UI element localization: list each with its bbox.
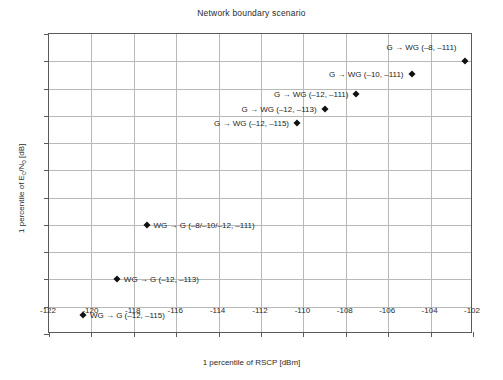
y-tick (44, 34, 49, 35)
gridline-horizontal (49, 61, 471, 62)
x-tick (303, 332, 304, 337)
x-tick-label: -118 (113, 306, 153, 315)
gridline-horizontal (49, 279, 471, 280)
data-point-label: G → WG (–12, –111) (274, 90, 348, 99)
gridline-horizontal (49, 252, 471, 253)
x-tick-label: -122 (28, 306, 68, 315)
chart-title: Network boundary scenario (0, 8, 503, 18)
data-point-marker (461, 58, 468, 65)
data-point-marker (321, 105, 328, 112)
gridline-vertical (303, 34, 304, 332)
data-point-marker (143, 221, 150, 228)
x-tick-label: -110 (282, 306, 322, 315)
gridline-horizontal (49, 170, 471, 171)
y-axis-title: 1 percentile of Ec/No [dB] (17, 38, 28, 338)
data-point-marker (113, 276, 120, 283)
gridline-vertical (431, 34, 432, 332)
gridline-vertical (346, 34, 347, 332)
x-tick (431, 332, 432, 337)
gridline-vertical (91, 34, 92, 332)
y-tick (44, 61, 49, 62)
gridline-vertical (388, 34, 389, 332)
data-point-label: G → WG (–10, –111) (329, 69, 403, 78)
y-tick (44, 170, 49, 171)
data-point-label: WG → G (–8/–10/–12, –111) (154, 220, 255, 229)
x-tick-label: -102 (452, 306, 492, 315)
x-tick (219, 332, 220, 337)
gridline-horizontal (49, 89, 471, 90)
x-tick (176, 332, 177, 337)
x-tick (134, 332, 135, 337)
y-tick (44, 198, 49, 199)
plot-area: G → WG (–8, –111)G → WG (–10, –111)G → W… (48, 33, 472, 333)
data-point-label: G → WG (–8, –111) (387, 43, 457, 52)
x-tick (473, 332, 474, 337)
data-point-marker (408, 70, 415, 77)
data-point-marker (353, 90, 360, 97)
y-tick (44, 252, 49, 253)
x-tick-label: -108 (325, 306, 365, 315)
x-tick (49, 332, 50, 337)
y-tick (44, 279, 49, 280)
x-tick-label: -106 (367, 306, 407, 315)
gridline-horizontal (49, 225, 471, 226)
data-point-label: WG → G (–12, –113) (124, 275, 199, 284)
y-tick (44, 143, 49, 144)
gridline-horizontal (49, 116, 471, 117)
gridline-horizontal (49, 143, 471, 144)
x-tick-label: -104 (410, 306, 450, 315)
data-point-label: G → WG (–12, –115) (214, 118, 289, 127)
gridline-vertical (261, 34, 262, 332)
y-tick (44, 116, 49, 117)
gridline-vertical (219, 34, 220, 332)
x-tick (261, 332, 262, 337)
data-point-marker (293, 119, 300, 126)
x-axis-title: 1 percentile of RSCP [dBm] (0, 358, 503, 367)
gridline-vertical (176, 34, 177, 332)
x-tick-label: -114 (198, 306, 238, 315)
y-tick (44, 225, 49, 226)
x-tick (388, 332, 389, 337)
data-point-label: G → WG (–12, –113) (242, 105, 317, 114)
gridline-horizontal (49, 198, 471, 199)
x-tick (346, 332, 347, 337)
x-tick-label: -116 (155, 306, 195, 315)
x-tick (91, 332, 92, 337)
x-tick-label: -112 (240, 306, 280, 315)
y-tick (44, 89, 49, 90)
x-tick-label: -120 (70, 306, 110, 315)
gridline-vertical (134, 34, 135, 332)
chart-figure: Network boundary scenario G → WG (–8, –1… (0, 0, 503, 380)
